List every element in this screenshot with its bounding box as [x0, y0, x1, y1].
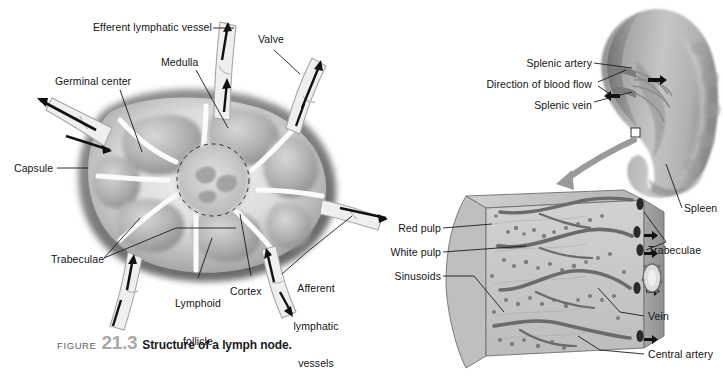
label-trabeculae-spleen: Trabeculae — [648, 244, 701, 257]
label-cortex: Cortex — [230, 285, 262, 298]
label-white-pulp: White pulp — [367, 246, 441, 259]
label-vein: Vein — [648, 310, 669, 323]
caption-figure-title: Structure of a lymph node. — [142, 338, 291, 352]
callout-square — [631, 128, 640, 137]
label-splenic-vein: Splenic vein — [440, 99, 592, 112]
label-direction-of-blood-flow: Direction of blood flow — [420, 78, 592, 91]
label-efferent-lymphatic-vessel: Efferent lymphatic vessel — [28, 21, 212, 34]
label-germinal-center: Germinal center — [55, 75, 131, 88]
label-capsule: Capsule — [14, 162, 53, 175]
label-medulla: Medulla — [161, 56, 198, 69]
figure-caption: FIGURE 21.3 Structure of a lymph node. — [57, 332, 292, 354]
label-valve: Valve — [258, 33, 284, 46]
spleen-organ — [601, 9, 721, 198]
label-afferent-line1: Afferent — [283, 282, 349, 295]
label-afferent-line2: lymphatic — [283, 320, 349, 333]
label-trabeculae: Trabeculae — [51, 253, 104, 266]
label-central-artery: Central artery — [648, 348, 713, 361]
caption-figure-word: FIGURE — [57, 340, 97, 351]
valve-lymphatic-vessel — [286, 58, 326, 134]
figure-illustration — [0, 0, 723, 376]
afferent-lymphatic-vessel-bottom-left — [110, 252, 142, 330]
lymph-node-medulla — [177, 144, 249, 216]
caption-figure-number: 21.3 — [102, 332, 138, 354]
label-splenic-artery: Splenic artery — [440, 57, 592, 70]
label-lymphoid-follicle-line1: Lymphoid — [163, 297, 233, 310]
leader-valve — [274, 50, 300, 74]
label-afferent-lymphatic-vessels: Afferent lymphatic vessels — [283, 257, 349, 376]
anatomy-illustration-svg — [0, 0, 723, 376]
label-sinusoids: Sinusoids — [371, 270, 441, 283]
label-red-pulp: Red pulp — [373, 222, 441, 235]
label-spleen: Spleen — [684, 202, 717, 215]
label-afferent-line3: vessels — [283, 357, 349, 370]
spleen-tissue-block — [446, 190, 664, 368]
magnify-arrow — [556, 140, 634, 190]
